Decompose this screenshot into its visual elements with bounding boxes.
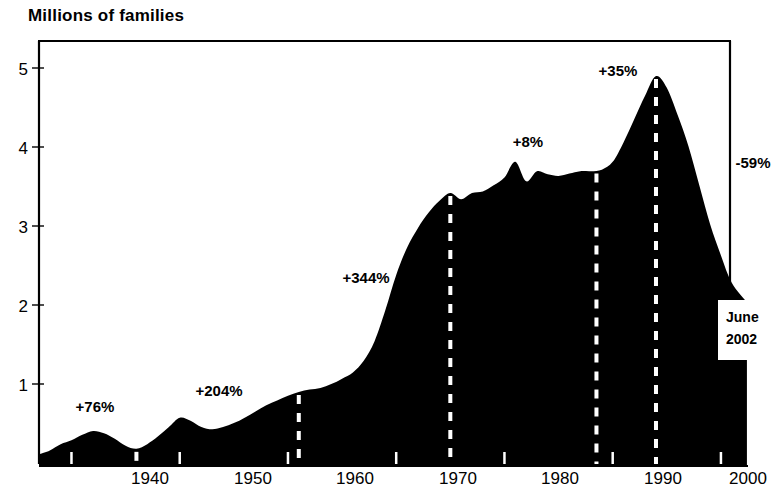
annotation-plus-76: +76% (76, 398, 115, 415)
annotation-minus-59: -59% (735, 154, 770, 171)
chart-container: Millions of families 5 4 3 2 1 (0, 0, 778, 488)
y-axis-labels: 5 4 3 2 1 (19, 60, 28, 395)
x-axis-labels: 1940 1950 1960 1970 1980 1990 2000 (131, 469, 767, 488)
annotation-plus-8: +8% (513, 133, 543, 150)
y-tick-label-5: 5 (19, 60, 28, 79)
x-tick-label-1970: 1970 (439, 469, 477, 488)
annotation-plus-35: +35% (599, 62, 638, 79)
x-tick-label-1950: 1950 (234, 469, 272, 488)
final-value-year: 2002 (726, 331, 757, 347)
x-tick-label-1960: 1960 (336, 469, 374, 488)
x-tick-label-1940: 1940 (131, 469, 169, 488)
y-tick-label-1: 1 (19, 376, 28, 395)
final-value-month: June (726, 309, 759, 325)
annotation-plus-344: +344% (342, 269, 389, 286)
final-value-callout: June 2002 (718, 300, 778, 360)
y-tick-label-2: 2 (19, 297, 28, 316)
y-tick-label-3: 3 (19, 218, 28, 237)
x-tick-label-1980: 1980 (541, 469, 579, 488)
x-tick-label-2000: 2000 (729, 469, 767, 488)
annotation-plus-204: +204% (195, 382, 242, 399)
y-tick-label-4: 4 (19, 139, 28, 158)
area-chart-plot: 5 4 3 2 1 1940 1950 1960 1970 1980 1990 … (0, 0, 778, 488)
x-tick-label-1990: 1990 (644, 469, 682, 488)
